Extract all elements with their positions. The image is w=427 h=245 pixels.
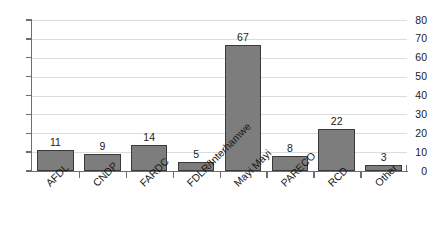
y-tick-mark: [26, 95, 32, 96]
y-tick-mark: [26, 170, 32, 171]
y-tick-label: 70: [403, 33, 427, 44]
y-tick-mark: [26, 19, 32, 20]
y-tick-mark: [26, 57, 32, 58]
y-tick-label: 60: [403, 52, 427, 63]
y-tick-label: 20: [403, 128, 427, 139]
gridline: [32, 96, 407, 97]
y-tick-mark: [26, 133, 32, 134]
bar-value-label: 8: [270, 143, 310, 154]
x-tick-mark: [79, 172, 80, 178]
y-tick-mark: [26, 38, 32, 39]
gridline: [32, 58, 407, 59]
bar-value-label: 11: [35, 137, 75, 148]
x-tick-mark: [360, 172, 361, 178]
bar-value-label: 67: [223, 32, 263, 43]
y-tick-label: 0: [403, 166, 427, 177]
gridline: [32, 20, 407, 21]
y-tick-mark: [26, 114, 32, 115]
x-tick-mark: [126, 172, 127, 178]
bar-value-label: 22: [317, 116, 357, 127]
bar[interactable]: [225, 45, 262, 171]
bar[interactable]: [318, 129, 355, 171]
gridline: [32, 77, 407, 78]
gridline: [32, 114, 407, 115]
x-tick-mark: [220, 172, 221, 178]
x-tick-mark: [313, 172, 314, 178]
y-tick-label: 40: [403, 90, 427, 101]
y-tick-label: 10: [403, 147, 427, 158]
bar-value-label: 14: [129, 132, 169, 143]
bar-value-label: 9: [82, 141, 122, 152]
y-tick-label: 30: [403, 109, 427, 120]
x-tick-mark: [173, 172, 174, 178]
gridline: [32, 39, 407, 40]
y-tick-label: 80: [403, 15, 427, 26]
y-tick-mark: [26, 151, 32, 152]
bar-value-label: 3: [364, 152, 404, 163]
y-tick-mark: [26, 76, 32, 77]
bar-chart: 01020304050607080 119145678223 AFDLCNDPF…: [0, 0, 427, 245]
y-tick-label: 50: [403, 71, 427, 82]
x-tick-mark: [266, 172, 267, 178]
